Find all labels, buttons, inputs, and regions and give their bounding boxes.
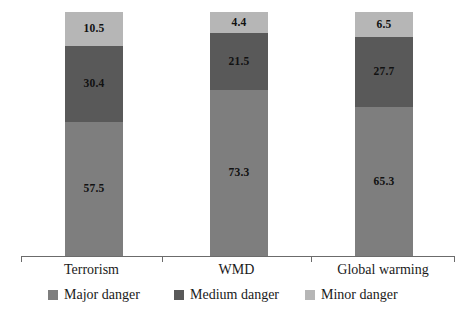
bar-value-label: 4.4 bbox=[232, 17, 247, 29]
x-axis-tick-label: Global warming bbox=[311, 262, 455, 278]
legend-item-major-danger[interactable]: Major danger bbox=[48, 288, 140, 302]
legend-item-minor-danger[interactable]: Minor danger bbox=[305, 288, 398, 302]
bar-value-label: 10.5 bbox=[84, 23, 105, 35]
bar-segment-major[interactable]: 73.3 bbox=[210, 90, 268, 256]
bar-value-label: 21.5 bbox=[229, 56, 250, 68]
x-axis-category-labels: Terrorism WMD Global warming bbox=[0, 262, 467, 284]
bar-segment-minor[interactable]: 6.5 bbox=[355, 12, 413, 37]
x-axis-tick-label: Terrorism bbox=[21, 262, 162, 278]
legend-swatch-major-icon bbox=[48, 290, 58, 300]
bar-column-terrorism[interactable]: 10.5 30.4 57.5 bbox=[65, 12, 123, 256]
bar-value-label: 65.3 bbox=[374, 176, 395, 188]
legend-label: Major danger bbox=[64, 288, 140, 302]
bar-value-label: 30.4 bbox=[84, 78, 105, 90]
bar-segment-medium[interactable]: 27.7 bbox=[355, 37, 413, 107]
chart-legend: Major danger Medium danger Minor danger bbox=[0, 288, 467, 312]
stacked-bar-chart: 10.5 30.4 57.5 4.4 21.5 73.3 6.5 bbox=[0, 0, 467, 323]
legend-item-medium-danger[interactable]: Medium danger bbox=[174, 288, 279, 302]
bar-value-label: 6.5 bbox=[377, 19, 392, 31]
bar-segment-medium[interactable]: 21.5 bbox=[210, 33, 268, 90]
bar-segment-major[interactable]: 57.5 bbox=[65, 122, 123, 256]
bar-column-global-warming[interactable]: 6.5 27.7 65.3 bbox=[355, 12, 413, 256]
legend-swatch-medium-icon bbox=[174, 290, 184, 300]
bar-segment-minor[interactable]: 4.4 bbox=[210, 12, 268, 33]
plot-area: 10.5 30.4 57.5 4.4 21.5 73.3 6.5 bbox=[0, 0, 467, 256]
x-axis-tick-label: WMD bbox=[162, 262, 311, 278]
bar-value-label: 73.3 bbox=[229, 167, 250, 179]
bar-segment-major[interactable]: 65.3 bbox=[355, 107, 413, 256]
bar-value-label: 27.7 bbox=[374, 66, 395, 78]
legend-label: Minor danger bbox=[321, 288, 398, 302]
bar-column-wmd[interactable]: 4.4 21.5 73.3 bbox=[210, 12, 268, 256]
bar-segment-medium[interactable]: 30.4 bbox=[65, 46, 123, 122]
x-axis-line bbox=[21, 256, 455, 257]
legend-label: Medium danger bbox=[190, 288, 279, 302]
bar-value-label: 57.5 bbox=[84, 183, 105, 195]
legend-swatch-minor-icon bbox=[305, 290, 315, 300]
bar-segment-minor[interactable]: 10.5 bbox=[65, 12, 123, 46]
